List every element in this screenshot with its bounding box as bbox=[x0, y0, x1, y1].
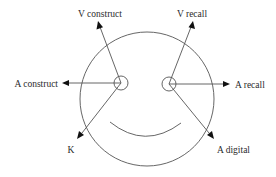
label-a-recall: A recall bbox=[235, 80, 265, 90]
arrow-k bbox=[77, 83, 121, 139]
label-a-digital: A digital bbox=[217, 145, 250, 155]
arrow-a-construct bbox=[62, 80, 121, 86]
arrow-a-digital bbox=[169, 84, 214, 139]
label-v-construct: V construct bbox=[78, 9, 122, 19]
arrow-v-construct bbox=[97, 21, 122, 83]
face-outline bbox=[80, 32, 214, 166]
arrow-v-recall bbox=[169, 21, 195, 84]
eye-accessing-cues-diagram: V construct V recall A construct A recal… bbox=[0, 0, 276, 177]
label-v-recall: V recall bbox=[177, 9, 208, 19]
label-a-construct: A construct bbox=[14, 79, 58, 89]
arrow-a-recall bbox=[169, 81, 230, 87]
label-k: K bbox=[68, 145, 75, 155]
smile bbox=[110, 122, 181, 136]
